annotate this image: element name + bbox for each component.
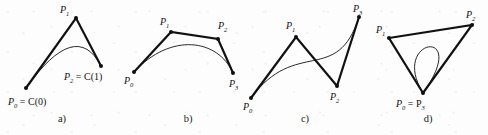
bezier-figure: P0 = C(0) P1 P2 = C(1) a) P0 P1 — [0, 0, 488, 135]
point-label-c-p1: P1 — [285, 20, 295, 33]
control-point-d-p1 — [387, 36, 391, 40]
figure-canvas: P0 = C(0) P1 P2 = C(1) a) P0 P1 — [0, 0, 488, 135]
point-label-a-p0: P0 = C(0) — [7, 96, 46, 109]
control-point-a-p0 — [24, 86, 28, 90]
control-point-b-p2 — [216, 37, 220, 41]
panel-d: P1 P2 P0 = P3 d) — [375, 9, 476, 125]
control-point-c-p1 — [294, 35, 298, 39]
panel-caption-b: b) — [184, 113, 193, 125]
point-label-c-p0: P0 — [242, 101, 253, 114]
point-label-a-p2: P2 = C(1) — [63, 71, 102, 84]
panel-a: P0 = C(0) P1 P2 = C(1) a) — [7, 4, 103, 125]
panel-c: P0 P1 P2 P3 c) — [242, 3, 363, 125]
point-label-c-p2: P2 — [329, 91, 340, 104]
control-point-b-p3 — [231, 71, 235, 75]
panel-caption-a: a) — [58, 113, 67, 125]
point-label-d-p0p3: P0 = P3 — [395, 98, 426, 111]
point-label-d-p2: P2 — [465, 9, 476, 22]
point-label-b-p2: P2 — [217, 20, 228, 33]
control-point-a-p2 — [99, 64, 103, 68]
control-polygon-d — [389, 25, 472, 93]
bezier-curve-b — [134, 45, 233, 73]
panel-b: P0 P1 P2 P3 b) — [123, 16, 239, 125]
panel-caption-c: c) — [301, 113, 310, 125]
control-point-b-p0 — [132, 70, 136, 74]
control-point-d-p2 — [470, 23, 474, 27]
control-point-c-p2 — [335, 84, 339, 88]
bezier-curve-c — [251, 17, 359, 98]
point-label-c-p3: P3 — [352, 3, 363, 16]
control-point-d-p0p3 — [421, 91, 425, 95]
control-point-a-p1 — [74, 16, 78, 20]
point-label-d-p1: P1 — [375, 24, 385, 37]
control-point-b-p1 — [169, 30, 173, 34]
control-point-c-p3 — [357, 15, 361, 19]
point-label-b-p1: P1 — [159, 16, 169, 29]
point-label-b-p3: P3 — [228, 78, 239, 91]
control-polygon-c — [251, 17, 359, 98]
point-label-b-p0: P0 — [123, 75, 134, 88]
control-point-c-p0 — [249, 96, 253, 100]
panel-caption-d: d) — [424, 113, 433, 125]
point-label-a-p1: P1 — [59, 4, 69, 17]
